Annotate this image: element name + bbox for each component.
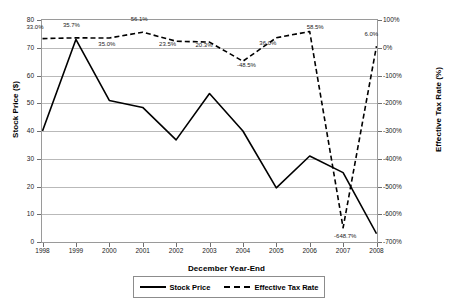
y-axis-right-tick-label: -500%: [383, 183, 413, 190]
series-lines: [42, 20, 377, 242]
y-axis-right-tick-mark: [378, 187, 382, 188]
data-label-effective-tax-rate: 33.0%: [27, 24, 44, 30]
x-axis-tick-mark: [310, 243, 311, 247]
x-axis-tick-label: 2007: [326, 247, 360, 254]
y-axis-right-tick-mark: [378, 242, 382, 243]
data-label-effective-tax-rate: 6.0%: [365, 31, 379, 37]
stock-price-line: [43, 39, 377, 233]
y-axis-right-tick-label: -400%: [383, 155, 413, 162]
y-axis-right-tick-label: 0%: [383, 44, 413, 51]
x-axis-tick-label: 2002: [159, 247, 193, 254]
x-axis-tick-label: 2000: [92, 247, 126, 254]
y-axis-left-tick-label: 60: [8, 72, 34, 79]
data-label-effective-tax-rate: 35.0%: [98, 41, 115, 47]
x-axis-tick-mark: [377, 243, 378, 247]
y-axis-left-tick-label: 80: [8, 16, 34, 23]
y-axis-left-tick-label: 70: [8, 44, 34, 51]
y-axis-right-tick-mark: [378, 20, 382, 21]
x-axis-tick-mark: [109, 243, 110, 247]
data-label-effective-tax-rate: 58.5%: [307, 24, 324, 30]
legend-label-effective-tax-rate: Effective Tax Rate: [254, 283, 318, 292]
legend-label-stock-price: Stock Price: [170, 283, 211, 292]
y-axis-right-tick-mark: [378, 214, 382, 215]
stock-price-tax-rate-chart: Stock Price ($) Effective Tax Rate (%) D…: [0, 0, 453, 307]
x-axis-tick-mark: [210, 243, 211, 247]
x-axis-tick-mark: [276, 243, 277, 247]
x-axis-tick-mark: [143, 243, 144, 247]
data-label-effective-tax-rate: 56.1%: [131, 16, 148, 22]
y-axis-right-tick-mark: [378, 159, 382, 160]
chart-legend: Stock Price Effective Tax Rate: [133, 276, 325, 298]
x-axis-tick-label: 1998: [26, 247, 60, 254]
solid-line-icon: [140, 286, 166, 288]
y-axis-right-tick-mark: [378, 131, 382, 132]
x-axis-tick-label: 2005: [259, 247, 293, 254]
y-axis-left-tick-label: 30: [8, 155, 34, 162]
x-axis-tick-mark: [343, 243, 344, 247]
data-label-effective-tax-rate: 23.5%: [159, 41, 176, 47]
y-axis-right-tick-label: -100%: [383, 72, 413, 79]
x-axis-tick-mark: [76, 243, 77, 247]
data-label-effective-tax-rate: -48.5%: [237, 62, 256, 68]
data-label-effective-tax-rate: -648.7%: [334, 233, 356, 239]
y-axis-right-tick-mark: [378, 48, 382, 49]
y-axis-right-tick-label: -200%: [383, 99, 413, 106]
y-axis-right-tick-label: -300%: [383, 127, 413, 134]
x-axis-tick-label: 2004: [226, 247, 260, 254]
data-label-effective-tax-rate: 36.0%: [259, 40, 276, 46]
x-axis-tick-label: 2001: [126, 247, 160, 254]
y-axis-right-title: Effective Tax Rate (%): [434, 55, 443, 165]
x-axis-tick-label: 2006: [293, 247, 327, 254]
y-axis-right-tick-mark: [378, 76, 382, 77]
x-axis-tick-label: 2008: [360, 247, 394, 254]
x-axis-tick-label: 2003: [193, 247, 227, 254]
x-axis-tick-label: 1999: [59, 247, 93, 254]
x-axis-tick-mark: [243, 243, 244, 247]
y-axis-left-tick-label: 50: [8, 99, 34, 106]
y-axis-left-tick-label: 40: [8, 127, 34, 134]
x-axis-tick-mark: [176, 243, 177, 247]
x-axis-tick-mark: [43, 243, 44, 247]
plot-area: [41, 19, 378, 243]
y-axis-left-tick-label: 20: [8, 183, 34, 190]
y-axis-left-tick-label: 10: [8, 210, 34, 217]
effective-tax-rate-line: [43, 32, 377, 228]
x-axis-title: December Year-End: [0, 264, 453, 273]
data-label-effective-tax-rate: 20.3%: [196, 42, 213, 48]
y-axis-right-tick-label: -700%: [383, 238, 413, 245]
legend-item-stock-price: Stock Price: [140, 283, 211, 292]
data-label-effective-tax-rate: 35.7%: [63, 22, 80, 28]
y-axis-right-tick-label: -600%: [383, 210, 413, 217]
y-axis-right-tick-label: 100%: [383, 16, 413, 23]
y-axis-right-tick-mark: [378, 103, 382, 104]
y-axis-left-tick-label: 0: [8, 238, 34, 245]
legend-item-effective-tax-rate: Effective Tax Rate: [224, 283, 318, 292]
dashed-line-icon: [224, 286, 250, 288]
